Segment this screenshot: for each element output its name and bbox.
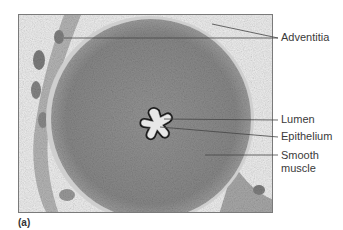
panel-letter: (a) bbox=[18, 217, 30, 228]
label-smooth-muscle-line1: Smooth bbox=[281, 150, 319, 161]
epithelium-leader bbox=[160, 127, 278, 137]
label-epithelium: Epithelium bbox=[281, 131, 332, 142]
lumen-leader bbox=[164, 119, 278, 120]
label-adventitia: Adventitia bbox=[281, 32, 329, 43]
label-smooth-muscle-line2: muscle bbox=[281, 163, 316, 174]
adventitia-leader-right bbox=[212, 24, 278, 38]
label-lumen: Lumen bbox=[281, 114, 315, 125]
